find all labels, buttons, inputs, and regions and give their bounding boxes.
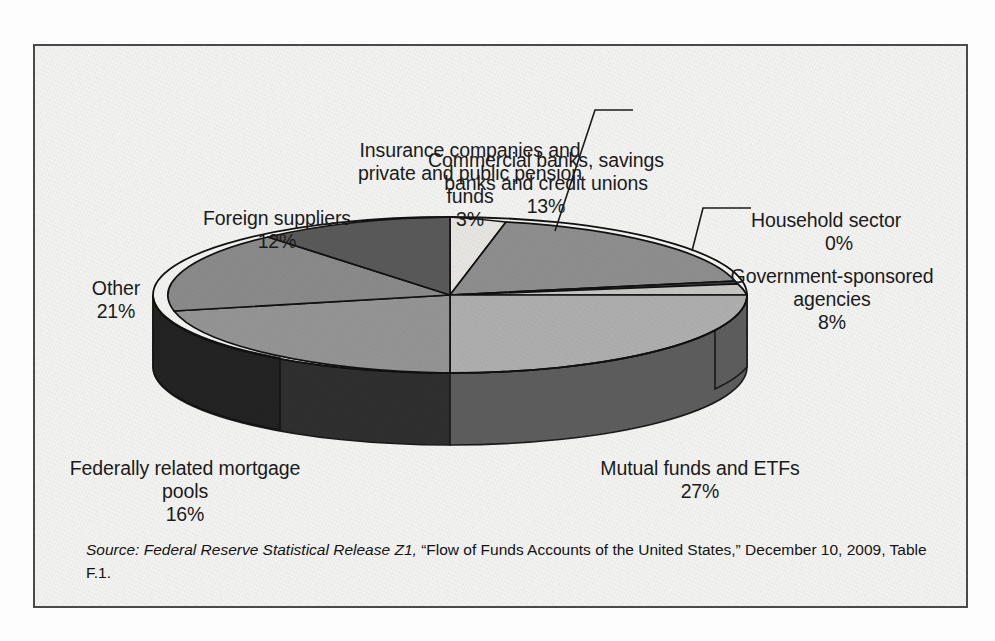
label-insurance-pct: 3% [345,208,595,231]
source-note-emphasis: Source: Federal Reserve Statistical Rele… [86,541,417,558]
label-mutual-funds-text: Mutual funds and ETFs [600,457,800,479]
label-gov-sponsored-pct: 8% [707,311,957,334]
label-mortgage-pools-text: Federally related mortgage pools [70,457,300,502]
scanned-page: the text of the page behind shows faintl… [0,0,995,641]
label-household-sector-text: Household sector [751,209,901,231]
source-note: Source: Federal Reserve Statistical Rele… [86,538,931,584]
label-other-pct: 21% [51,300,181,323]
label-gov-sponsored: Government-sponsored agencies 8% [707,242,957,357]
label-mutual-funds: Mutual funds and ETFs 27% [575,434,825,526]
label-mortgage-pools: Federally related mortgage pools 16% [45,434,325,549]
label-mutual-funds-pct: 27% [575,480,825,503]
label-insurance-text: Insurance companies and private and publ… [358,139,582,207]
label-other-text: Other [92,277,140,299]
label-gov-sponsored-text: Government-sponsored agencies [731,265,934,310]
label-mortgage-pools-pct: 16% [45,503,325,526]
label-insurance: Insurance companies and private and publ… [345,116,595,254]
pie-chart: Commercial banks, savings banks and cred… [35,46,966,606]
label-foreign-suppliers-text: Foreign suppliers [203,207,351,229]
figure-frame: Commercial banks, savings banks and cred… [33,44,968,608]
